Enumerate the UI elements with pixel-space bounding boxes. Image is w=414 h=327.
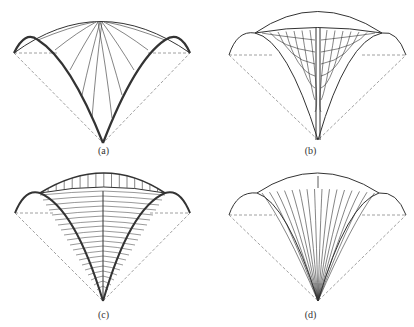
horizontal-rib: [103, 271, 117, 275]
horizontal-rib: [103, 236, 138, 240]
branch-rib: [321, 31, 335, 101]
horizontal-rib: [58, 221, 103, 225]
horizontal-rib: [79, 256, 103, 260]
horizontal-rib: [70, 241, 103, 245]
radial-rib: [55, 22, 96, 50]
side-arch-right: [318, 193, 406, 301]
horizontal-rib: [52, 211, 103, 215]
panel-b: (b): [207, 0, 414, 163]
arch-left: [14, 37, 103, 143]
horizontal-rib: [103, 251, 129, 255]
radial-rib: [38, 22, 94, 40]
horizontal-rib: [76, 251, 103, 255]
radial-rib: [106, 22, 165, 40]
dashed-base: [14, 53, 190, 143]
panel-d: (d): [207, 163, 414, 326]
horizontal-rib: [103, 241, 135, 245]
horizontal-rib: [85, 266, 103, 270]
panel-c: (c): [0, 163, 207, 326]
vault-diagram-d: [207, 163, 414, 326]
fan-arch: [315, 189, 319, 301]
central-rib: [316, 28, 320, 140]
horizontal-rib: [103, 221, 147, 225]
horizontal-rib: [61, 226, 103, 230]
fan-arches: [262, 189, 375, 301]
side-arch-left: [229, 193, 318, 301]
horizontal-rib: [103, 211, 153, 215]
caption-c: (c): [0, 309, 207, 320]
dashed-base: [229, 55, 406, 140]
arch-right: [103, 192, 190, 301]
crown-arc: [14, 22, 190, 54]
branch-ribs: [262, 30, 375, 112]
top-edge: [255, 28, 382, 34]
branch-rib: [262, 33, 315, 40]
horizontal-rib: [103, 261, 123, 265]
horizontal-rib: [103, 231, 141, 235]
horizontal-rib: [64, 231, 103, 235]
horizontal-rib: [103, 256, 126, 260]
horizontal-rib: [55, 216, 103, 220]
horizontal-rib: [103, 266, 120, 270]
horizontal-rib: [103, 276, 114, 280]
radial-rib: [100, 22, 122, 95]
vault-diagram-a: [0, 0, 207, 163]
horizontal-rib: [73, 246, 103, 250]
horizontal-rib: [88, 271, 103, 275]
arch-left: [15, 192, 103, 301]
radial-rib: [104, 22, 148, 50]
arch-right: [103, 37, 190, 143]
caption-a: (a): [0, 145, 207, 156]
horizontal-rib: [103, 246, 132, 250]
radial-ribs: [38, 22, 165, 118]
horizontal-rib: [67, 236, 103, 240]
vault-diagram-b: [207, 0, 414, 163]
caption-d: (d): [207, 309, 414, 320]
radial-rib: [102, 22, 134, 70]
branch-rib: [302, 31, 315, 101]
branch-rib: [321, 33, 375, 40]
vault-diagram-c: [0, 163, 207, 326]
horizontal-rib: [103, 226, 144, 230]
caption-b: (b): [207, 145, 414, 156]
side-arch-right: [318, 33, 406, 140]
panel-a: (a): [0, 0, 207, 163]
horizontal-rib: [82, 261, 103, 265]
horizontal-rib: [103, 216, 150, 220]
